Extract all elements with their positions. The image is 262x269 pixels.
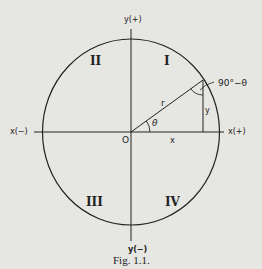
quadrant-i-label: I bbox=[164, 55, 170, 67]
complement-angle-arc bbox=[191, 89, 203, 95]
adjacent-label: x bbox=[170, 137, 175, 145]
hypotenuse-label: r bbox=[161, 99, 165, 108]
quadrant-ii-label: II bbox=[90, 55, 101, 67]
y-negative-label: y(−) bbox=[128, 246, 147, 254]
quadrant-iv-label: IV bbox=[165, 196, 180, 208]
quadrant-iii-label: III bbox=[86, 196, 103, 208]
x-positive-label: x(+) bbox=[228, 128, 246, 136]
origin-label: O bbox=[122, 136, 129, 145]
unit-circle-figure: y(+) y(−) x(−) x(+) O I II III IV r x y … bbox=[0, 0, 262, 269]
y-positive-label: y(+) bbox=[124, 16, 142, 24]
circle-diagram-svg bbox=[0, 0, 262, 269]
complement-angle-label: 90°−θ bbox=[218, 79, 247, 88]
theta-label: θ bbox=[152, 119, 158, 128]
theta-arc bbox=[146, 121, 150, 132]
x-negative-label: x(−) bbox=[10, 128, 28, 136]
opposite-label: y bbox=[205, 107, 210, 115]
radius-line bbox=[131, 80, 203, 132]
figure-caption: Fig. 1.1. bbox=[113, 255, 150, 266]
